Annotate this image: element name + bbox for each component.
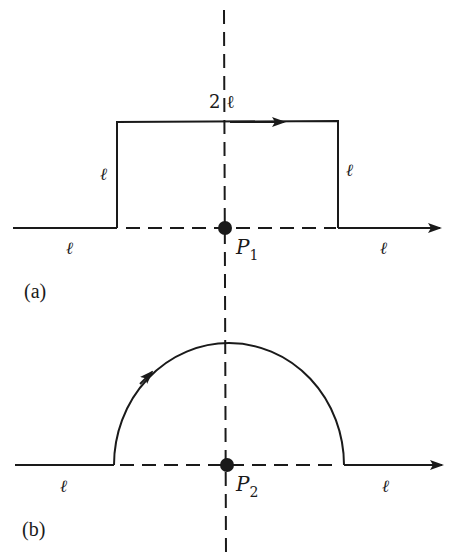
part-b-left-horizontal-label: ℓ: [60, 476, 67, 496]
point-p1-dot: [218, 221, 232, 235]
part-b-diagram: ℓ ℓ P2 (b): [15, 343, 442, 541]
point-p1-subscript: 1: [249, 247, 258, 263]
part-a-left-horizontal-label: ℓ: [66, 238, 73, 258]
point-p2-label: P2: [235, 472, 258, 500]
part-a-caption: (a): [24, 280, 46, 303]
part-a-top-label: 2 ℓ: [209, 91, 235, 112]
part-a-right-vertical-label: ℓ: [346, 160, 353, 180]
point-p1-label: P1: [235, 235, 258, 263]
part-a-right-horizontal-label: ℓ: [380, 238, 387, 258]
part-b-semicircular-path: [114, 343, 344, 465]
part-b-caption: (b): [22, 518, 45, 541]
point-p2-dot: [220, 458, 234, 472]
diagram-canvas: 2 ℓ ℓ ℓ ℓ ℓ P1 (a) ℓ ℓ P2 (b): [0, 0, 449, 556]
part-b-arc-arrow-icon: [140, 372, 152, 384]
point-p2-letter: P: [235, 472, 250, 496]
part-a-left-vertical-label: ℓ: [100, 164, 107, 184]
point-p1-letter: P: [235, 235, 250, 259]
point-p2-subscript: 2: [249, 484, 258, 500]
part-b-right-horizontal-label: ℓ: [382, 476, 389, 496]
part-a-rectangular-path: [117, 121, 338, 228]
part-a-diagram: 2 ℓ ℓ ℓ ℓ ℓ P1 (a): [13, 91, 440, 303]
